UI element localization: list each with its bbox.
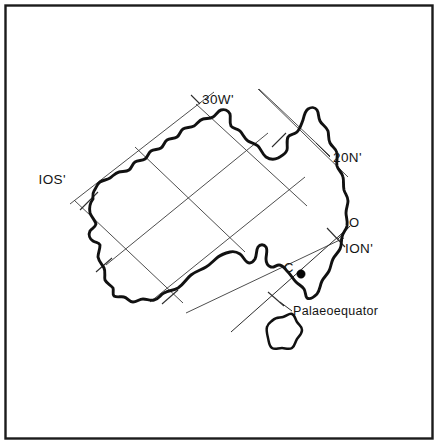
label-30w: 30W' xyxy=(202,92,234,107)
label-10n: ION' xyxy=(345,241,373,256)
figure-border xyxy=(6,6,433,439)
label-10s: IOS' xyxy=(39,172,66,187)
label-origin-o: O xyxy=(349,215,359,230)
site-marker-dot xyxy=(297,270,305,278)
figure-root: 30W' 20N' IOS' ION' O C Palaeoequator xyxy=(0,0,438,444)
label-site-c: C xyxy=(284,260,293,275)
label-palaeoequator: Palaeoequator xyxy=(293,304,378,318)
label-20n: 20N' xyxy=(333,150,362,165)
palaeogeographic-map-svg: 30W' 20N' IOS' ION' O C Palaeoequator xyxy=(0,0,438,444)
